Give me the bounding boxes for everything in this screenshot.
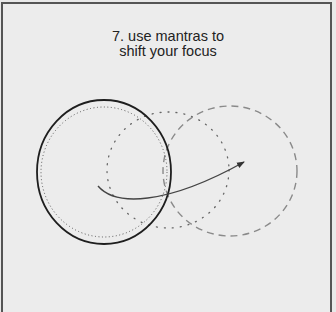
current-focus-circle <box>37 100 171 244</box>
inner-dotted-circle <box>41 107 167 237</box>
new-focus-dashed-circle <box>163 106 297 236</box>
transition-dotted-circle <box>107 112 229 228</box>
